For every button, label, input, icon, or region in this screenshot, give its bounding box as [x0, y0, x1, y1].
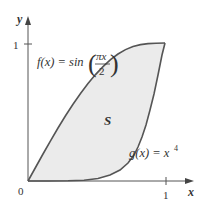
svg-text:4: 4: [174, 144, 178, 153]
svg-text:2: 2: [99, 65, 105, 77]
x-axis-arrow-icon: [185, 178, 194, 184]
region-label: S: [104, 113, 111, 128]
origin-label: 0: [18, 185, 24, 197]
svg-text:g(x) = x: g(x) = x: [129, 146, 170, 160]
y-tick-label: 1: [13, 39, 19, 51]
label-g: g(x) = x 4: [129, 144, 178, 160]
area-between-curves-diagram: y x 0 1 1 f(x) = sin ( πx 2 ) g(x) = x 4…: [0, 0, 200, 209]
x-tick-label: 1: [163, 189, 169, 201]
svg-text:): ): [110, 49, 119, 78]
svg-text:πx: πx: [96, 50, 107, 62]
y-axis-label: y: [15, 12, 23, 26]
x-axis-label: x: [187, 185, 194, 199]
svg-text:f(x) = sin: f(x) = sin: [37, 55, 84, 69]
y-axis-arrow-icon: [25, 16, 31, 25]
